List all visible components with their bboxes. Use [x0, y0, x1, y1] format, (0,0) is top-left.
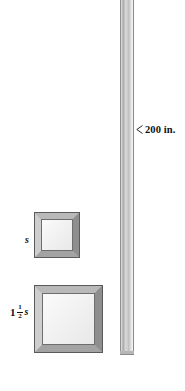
- label-variable-large: s: [25, 307, 29, 317]
- measurement-label: 200 in.: [145, 124, 175, 135]
- label-fraction-numerator-large: 1: [17, 304, 23, 312]
- frame-opening-small: [41, 219, 73, 251]
- square-frame-large: [34, 285, 103, 353]
- frame-opening-large: [42, 293, 95, 345]
- left-pointer-arrow-icon: [136, 125, 143, 134]
- label-fraction-large: 1 2: [17, 304, 23, 320]
- molding-pole-left-edge: [120, 0, 121, 354]
- label-side-small: s: [25, 230, 29, 246]
- square-frame-small: [34, 212, 80, 258]
- label-side-large: 1 1 2 s: [10, 304, 28, 320]
- measurement-callout: 200 in.: [136, 124, 175, 135]
- label-whole-number-large: 1: [10, 307, 16, 318]
- geometry-figure: 200 in. s 1 1 2 s: [0, 0, 185, 391]
- label-fraction-denominator-large: 2: [17, 313, 23, 321]
- molding-pole-right-edge: [133, 0, 134, 354]
- label-variable-small: s: [25, 234, 29, 245]
- molding-pole: [120, 0, 134, 354]
- molding-pole-bottom-end: [120, 351, 134, 355]
